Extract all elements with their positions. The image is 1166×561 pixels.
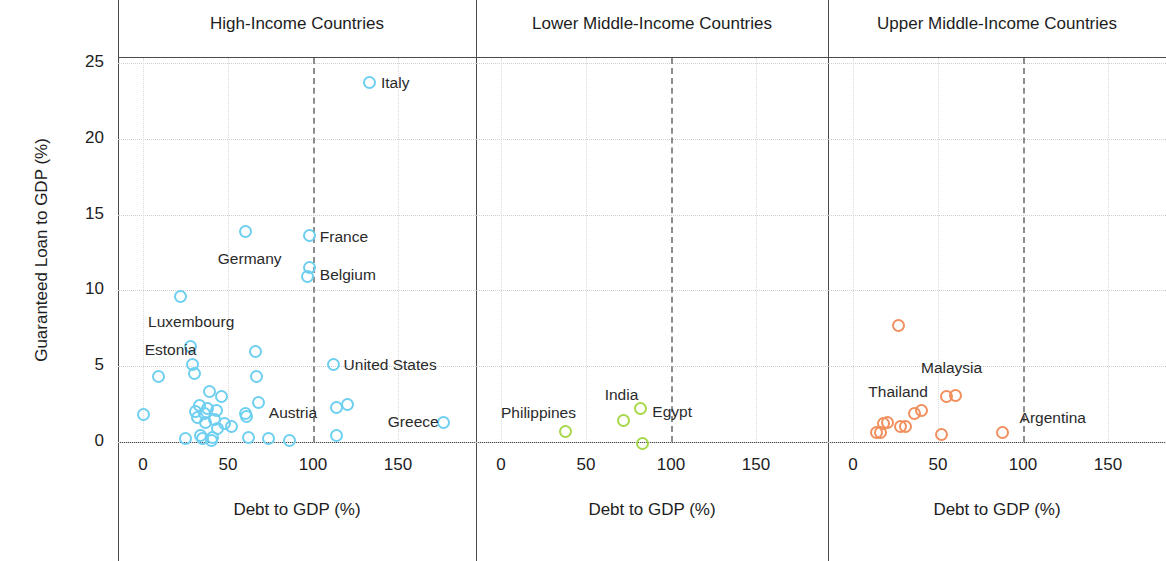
x-tick-label: 0 [138,455,147,475]
x-axis-title: Debt to GDP (%) [476,500,828,520]
data-point [179,432,192,445]
point-label: United States [344,357,437,373]
point-label: Luxembourg [148,314,234,330]
data-point [935,428,948,441]
data-point [249,345,262,358]
gridline-vertical [938,58,939,442]
panel-upper-middle-income: Upper Middle-Income CountriesMalaysiaTha… [828,0,1166,561]
data-point [341,398,354,411]
gridline-horizontal [476,366,828,367]
point-label: India [605,387,639,403]
plot-area-upper-middle-income: MalaysiaThailandArgentina [828,57,1166,443]
gridline-horizontal [476,139,828,140]
y-tick-label: 10 [85,279,104,299]
data-point [363,76,376,89]
gridline-vertical [853,58,854,442]
x-axis-ticks: 050100150 [118,455,476,485]
gridline-vertical [1108,58,1109,442]
point-label: Argentina [1020,410,1086,426]
y-tick-label: 5 [95,355,104,375]
data-point [215,390,228,403]
gridline-horizontal [476,63,828,64]
data-point [634,402,647,415]
data-point [210,404,223,417]
x-tick-label: 150 [384,455,412,475]
x-axis-ticks: 050100150 [828,455,1166,485]
data-point [203,385,216,398]
panel-lower-middle-income: Lower Middle-Income CountriesPhilippines… [476,0,828,561]
point-label: Belgium [320,267,376,283]
data-point [252,396,265,409]
data-point [915,404,928,417]
point-label: Egypt [652,404,692,420]
gridline-horizontal [476,215,828,216]
x-tick-label: 50 [929,455,948,475]
x-tick-label: 50 [219,455,238,475]
gridline-horizontal [828,366,1166,367]
panel-title-upper-middle-income: Upper Middle-Income Countries [828,14,1166,34]
gridline-horizontal [118,442,476,443]
data-point [262,432,275,445]
x-axis-title: Debt to GDP (%) [828,500,1166,520]
y-tick-label: 15 [85,204,104,224]
y-tick-label: 0 [95,431,104,451]
gridline-horizontal [476,442,828,443]
data-point [250,370,263,383]
gridline-horizontal [118,290,476,291]
gridline-horizontal [828,139,1166,140]
x-tick-label: 100 [657,455,685,475]
gridline-horizontal [118,215,476,216]
data-point [892,319,905,332]
data-point [996,426,1009,439]
gridline-vertical [143,58,144,442]
panel-high-income: High-Income CountriesItalyFranceBelgiumG… [118,0,476,561]
gridline-vertical [398,58,399,442]
gridline-horizontal [476,290,828,291]
gridline-horizontal [118,63,476,64]
panel-title-high-income: High-Income Countries [118,14,476,34]
data-point [240,410,253,423]
data-point [239,225,252,238]
point-label: Thailand [868,384,927,400]
x-axis-title: Debt to GDP (%) [118,500,476,520]
x-tick-label: 50 [577,455,596,475]
x-tick-label: 150 [742,455,770,475]
point-label: Austria [269,405,317,421]
plot-area-high-income: ItalyFranceBelgiumGermanyLuxembourgEston… [118,57,476,443]
y-tick-label: 25 [85,52,104,72]
gridline-vertical [756,58,757,442]
data-point [899,420,912,433]
data-point [881,416,894,429]
data-point [137,408,150,421]
data-point [283,434,296,447]
data-point [188,367,201,380]
gridline-vertical [586,58,587,442]
gridline-vertical [501,58,502,442]
point-label: Estonia [145,342,197,358]
data-point [152,370,165,383]
data-point [225,420,238,433]
point-label: Italy [381,75,409,91]
data-point [437,416,450,429]
panel-title-lower-middle-income: Lower Middle-Income Countries [476,14,828,34]
point-label: Germany [218,251,282,267]
gridline-horizontal [828,442,1166,443]
data-point [559,425,572,438]
data-point [174,290,187,303]
plot-area-lower-middle-income: PhilippinesIndiaEgypt [476,57,828,443]
point-label: Malaysia [921,360,982,376]
scatter-figure: Guaranteed Loan to GDP (%) 0510152025 Hi… [0,0,1166,561]
gridline-horizontal [828,63,1166,64]
point-label: France [320,229,368,245]
point-label: Greece [388,414,439,430]
data-point [327,358,340,371]
threshold-line-100 [1023,58,1025,442]
x-tick-label: 100 [299,455,327,475]
data-point [949,389,962,402]
gridline-horizontal [828,290,1166,291]
data-point [330,429,343,442]
threshold-line-100 [313,58,315,442]
gridline-horizontal [828,215,1166,216]
point-label: Philippines [501,405,576,421]
y-axis-ticks: 0510152025 [0,0,118,561]
